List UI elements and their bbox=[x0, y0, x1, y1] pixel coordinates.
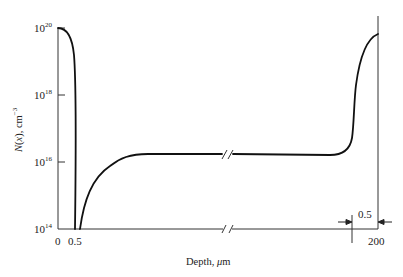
front-diffusion-segment bbox=[58, 28, 76, 229]
axes bbox=[58, 16, 378, 243]
profile-curve bbox=[58, 28, 378, 229]
y-tick-label-1e14: 1014 bbox=[34, 222, 53, 235]
arrow-right-icon bbox=[346, 220, 352, 225]
y-tick-label-1e18: 1018 bbox=[34, 88, 53, 101]
arrow-left-icon bbox=[378, 220, 384, 225]
x-axis-title: Depth, μm bbox=[186, 256, 230, 267]
x-axis-break-icon bbox=[222, 225, 233, 233]
dimension-label: 0.5 bbox=[358, 208, 372, 220]
y-axis-title: N(x), cm−3 bbox=[11, 107, 25, 153]
dimension-arrows bbox=[338, 220, 392, 225]
y-tick-label-1e20: 1020 bbox=[34, 21, 53, 34]
y-tick-label-1e16: 1016 bbox=[34, 155, 53, 168]
doping-profile-chart: 1020 1018 1016 1014 0 0.5 200 0.5 Depth,… bbox=[0, 0, 403, 277]
y-tick-labels: 1020 1018 1016 1014 bbox=[34, 21, 53, 235]
back-surface-field-segment bbox=[233, 34, 378, 155]
x-tick-label-200: 200 bbox=[368, 235, 385, 247]
base-rise-segment bbox=[80, 154, 222, 229]
x-tick-labels: 0 0.5 200 bbox=[55, 235, 385, 247]
x-tick-label-0-5: 0.5 bbox=[68, 235, 82, 247]
x-tick-label-0: 0 bbox=[55, 235, 61, 247]
curve-break-icon bbox=[222, 150, 233, 159]
